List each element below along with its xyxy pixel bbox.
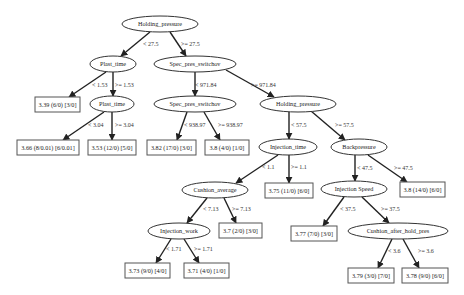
tree-edge: >= 57.5	[311, 111, 354, 140]
split-feature-label: Injection Speed	[335, 185, 375, 192]
leaf-node: 3.7 (2/0) [3/0]	[219, 223, 262, 238]
tree-edge: < 47.5	[355, 155, 372, 181]
leaf-node: 3.73 (9/0) [4/0]	[125, 263, 170, 278]
leaf-value-label: 3.7 (2/0) [3/0]	[223, 227, 258, 235]
tree-edge: < 7.13	[187, 198, 218, 223]
leaf-value-label: 3.8 (14/0) [6/0]	[404, 186, 442, 194]
tree-edge: < 1.53	[69, 72, 107, 97]
leaf-node: 3.78 (9/0) [6/0]	[402, 268, 448, 283]
tree-edge: < 971.84	[195, 72, 216, 96]
edge-condition-label: < 1.71	[166, 246, 181, 252]
split-node: Backpressure	[331, 139, 387, 155]
edge-condition-label: >= 1.53	[115, 82, 134, 88]
split-node: Spec_pres_switchov	[154, 56, 236, 72]
leaf-node: 3.53 (12/0) [5/0]	[88, 140, 136, 155]
leaf-node: 3.39 (6/0) [3/0]	[35, 97, 80, 112]
edge-condition-label: >= 47.5	[394, 165, 413, 171]
leaf-value-label: 3.73 (9/0) [4/0]	[129, 267, 167, 275]
split-node: Spec_pres_switchov	[154, 96, 236, 112]
edge-condition-label: < 3.04	[88, 122, 103, 128]
nodes-layer: Holding_pressurePlast_timeSpec_pres_swit…	[17, 16, 448, 283]
tree-edge: >= 3.04	[112, 112, 134, 140]
split-feature-label: Injection_work	[160, 227, 199, 234]
edge-condition-label: < 1.53	[92, 82, 107, 88]
edge-condition-label: >= 3.04	[115, 122, 134, 128]
edge-condition-label: >= 1.71	[194, 246, 213, 252]
edge-condition-label: >= 57.5	[335, 122, 354, 128]
split-feature-label: Injection_time	[270, 143, 306, 150]
decision-tree-diagram: < 27.5>= 27.5< 1.53>= 1.53< 971.84>= 971…	[0, 0, 464, 295]
edge-condition-label: >= 971.84	[251, 82, 276, 88]
split-feature-label: Spec_pres_switchov	[170, 100, 222, 107]
edge-condition-label: >= 3.6	[418, 248, 434, 254]
tree-edge: >= 1.1	[289, 155, 307, 183]
edge-condition-label: >= 27.5	[181, 41, 200, 47]
tree-edge: < 938.97	[177, 112, 205, 140]
split-node: Holding_pressure	[260, 96, 336, 112]
leaf-value-label: 3.71 (4/0) [1/0]	[188, 267, 226, 275]
tree-edge: >= 1.53	[113, 72, 134, 96]
leaf-value-label: 3.53 (12/0) [5/0]	[91, 144, 132, 152]
tree-edge: >= 1.71	[184, 239, 213, 263]
leaf-value-label: 3.66 (8/0.01) [6/0.01]	[21, 144, 74, 152]
split-node: Holding_pressure	[122, 16, 198, 32]
tree-edge: >= 37.5	[362, 197, 400, 223]
split-feature-label: Cushion_average	[194, 186, 237, 193]
split-node: Cushion_average	[182, 182, 248, 198]
split-node: Plast_time	[90, 96, 134, 112]
edge-condition-label: < 57.5	[291, 122, 306, 128]
leaf-node: 3.66 (8/0.01) [6/0.01]	[17, 140, 79, 155]
leaf-value-label: 3.78 (9/0) [6/0]	[406, 272, 444, 280]
edge-condition-label: < 7.13	[203, 206, 218, 212]
edge-condition-label: < 37.5	[340, 206, 355, 212]
split-feature-label: Plast_time	[99, 100, 125, 107]
split-feature-label: Backpressure	[342, 143, 376, 150]
edge-condition-label: < 1.1	[262, 164, 274, 170]
tree-edge: >= 971.84	[226, 70, 276, 97]
leaf-node: 3.77 (7/0) [3/0]	[291, 226, 337, 241]
tree-edge: >= 7.13	[224, 198, 251, 223]
edge-condition-label: < 971.84	[195, 82, 216, 88]
tree-edge: < 37.5	[323, 197, 355, 226]
edge-condition-label: < 27.5	[143, 41, 158, 47]
split-feature-label: Holding_pressure	[138, 20, 182, 27]
split-feature-label: Holding_pressure	[276, 100, 320, 107]
split-node: Injection_work	[148, 223, 210, 239]
tree-edge: < 3.04	[63, 112, 104, 140]
edge-condition-label: >= 7.13	[232, 206, 251, 212]
leaf-node: 3.8 (14/0) [6/0]	[400, 182, 445, 197]
leaf-node: 3.8 (4/0) [1/0]	[205, 140, 249, 155]
tree-edge: >= 27.5	[170, 32, 200, 56]
leaf-value-label: 3.39 (6/0) [3/0]	[39, 101, 77, 109]
leaf-node: 3.75 (11/0) [6/0]	[265, 183, 313, 198]
leaf-value-label: 3.75 (11/0) [6/0]	[269, 187, 310, 195]
edge-condition-label: < 3.6	[388, 248, 400, 254]
split-node: Plast_time	[90, 56, 136, 72]
split-node: Injection_time	[259, 139, 317, 155]
tree-edge: < 1.71	[156, 239, 181, 263]
edge-arrow-icon	[403, 239, 419, 268]
split-node: Injection Speed	[321, 181, 387, 197]
leaf-node: 3.71 (4/0) [1/0]	[184, 263, 229, 278]
edge-condition-label: >= 1.1	[291, 164, 307, 170]
tree-edge: < 3.6	[378, 239, 400, 268]
edge-condition-label: < 47.5	[357, 165, 372, 171]
split-feature-label: Spec_pres_switchov	[170, 60, 222, 67]
edge-condition-label: >= 938.97	[218, 122, 243, 128]
leaf-value-label: 3.79 (3/0) [7/0]	[352, 272, 390, 280]
split-feature-label: Plast_time	[100, 60, 126, 67]
tree-edge: < 27.5	[121, 32, 158, 56]
leaf-value-label: 3.82 (17/0) [3/0]	[151, 144, 192, 152]
tree-edge: >= 3.6	[403, 239, 434, 268]
leaf-value-label: 3.77 (7/0) [3/0]	[295, 230, 333, 238]
tree-edge: < 1.1	[236, 155, 278, 183]
edge-condition-label: >= 37.5	[381, 206, 400, 212]
leaf-node: 3.79 (3/0) [7/0]	[348, 268, 394, 283]
tree-edge: >= 47.5	[368, 155, 413, 182]
edge-condition-label: < 938.97	[184, 122, 205, 128]
split-feature-label: Cushion_after_hold_pres	[367, 227, 430, 234]
tree-edge: >= 938.97	[204, 112, 243, 140]
leaf-node: 3.82 (17/0) [3/0]	[147, 140, 196, 155]
split-node: Cushion_after_hold_pres	[348, 223, 448, 239]
leaf-value-label: 3.8 (4/0) [1/0]	[210, 144, 245, 152]
